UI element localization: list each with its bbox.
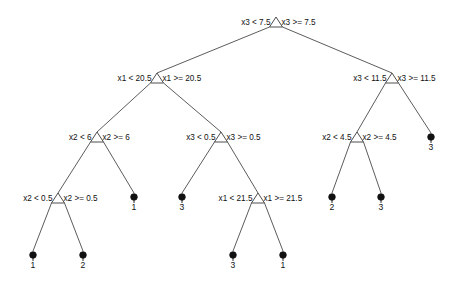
leaf-class-label: 1	[31, 260, 36, 270]
leaf-class-label: 3	[429, 142, 434, 152]
tree-edge-right	[283, 27, 393, 73]
leaf-node-marker[interactable]	[230, 252, 237, 259]
tree-edge-right	[265, 203, 284, 251]
split-condition-right: x3 >= 7.5	[282, 18, 317, 27]
tree-edge-left	[58, 142, 91, 193]
leaf-node-marker[interactable]	[428, 134, 435, 141]
leaf-node-marker[interactable]	[80, 252, 87, 259]
split-condition-left: x3 < 0.5	[186, 133, 216, 142]
leaf-class-label: 2	[81, 260, 86, 270]
tree-edge-left	[33, 203, 52, 251]
split-condition-left: x2 < 0.5	[23, 194, 53, 203]
tree-edge-right	[228, 142, 259, 193]
leaf-node-marker[interactable]	[378, 194, 385, 201]
tree-edge-left	[182, 142, 215, 193]
split-condition-left: x1 < 21.5	[219, 194, 253, 203]
split-condition-left: x1 < 20.5	[118, 74, 152, 83]
split-condition-right: x3 >= 0.5	[227, 133, 262, 142]
split-condition-right: x3 >= 11.5	[398, 74, 437, 83]
label-layer: x3 < 7.5x3 >= 7.5x1 < 20.5x1 >= 20.5x3 <…	[23, 18, 436, 270]
tree-edge-right	[164, 83, 222, 132]
split-condition-right: x2 >= 4.5	[363, 133, 398, 142]
tree-edge-right	[65, 203, 84, 251]
tree-edge-left	[157, 27, 270, 73]
split-condition-left: x3 < 11.5	[353, 74, 387, 83]
leaf-class-label: 1	[132, 202, 137, 212]
leaf-node-marker[interactable]	[280, 252, 287, 259]
split-condition-right: x1 >= 20.5	[163, 74, 202, 83]
tree-edge-left	[233, 203, 252, 251]
leaf-node-marker[interactable]	[131, 194, 138, 201]
split-condition-right: x1 >= 21.5	[264, 194, 303, 203]
leaf-class-label: 1	[281, 260, 286, 270]
leaf-class-label: 3	[231, 260, 236, 270]
tree-edge-right	[104, 142, 135, 193]
split-condition-right: x2 >= 0.5	[64, 194, 99, 203]
tree-edge-right	[399, 83, 432, 133]
leaf-node-marker[interactable]	[30, 252, 37, 259]
split-condition-left: x3 < 7.5	[241, 18, 271, 27]
leaf-class-label: 3	[379, 202, 384, 212]
tree-edge-right	[364, 142, 382, 193]
decision-tree-figure: x3 < 7.5x3 >= 7.5x1 < 20.5x1 >= 20.5x3 <…	[0, 0, 457, 282]
leaf-node-marker[interactable]	[179, 194, 186, 201]
split-condition-left: x2 < 6	[69, 133, 92, 142]
split-condition-left: x2 < 4.5	[322, 133, 352, 142]
tree-edge-left	[97, 83, 151, 132]
decision-tree-canvas: x3 < 7.5x3 >= 7.5x1 < 20.5x1 >= 20.5x3 <…	[0, 0, 457, 282]
leaf-node-marker[interactable]	[329, 194, 336, 201]
split-condition-right: x2 >= 6	[103, 133, 131, 142]
leaf-class-label: 2	[330, 202, 335, 212]
leaf-class-label: 3	[180, 202, 185, 212]
tree-edge-left	[332, 142, 351, 193]
tree-edge-left	[357, 83, 386, 132]
